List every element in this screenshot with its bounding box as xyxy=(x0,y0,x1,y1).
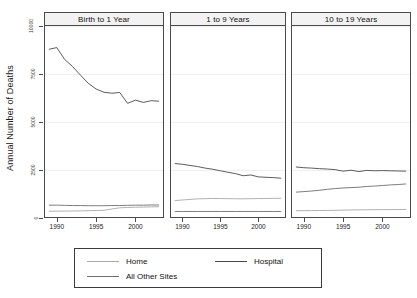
y-tick-mark xyxy=(39,170,43,171)
y-tick-label: 10000 xyxy=(22,17,38,35)
x-tick-mark xyxy=(220,218,221,222)
y-axis-title: Annual Number of Deaths xyxy=(2,30,18,205)
legend-label-home: Home xyxy=(126,257,147,266)
x-tick-label: 1990 xyxy=(297,223,311,230)
y-tick-label: 7500 xyxy=(22,65,38,83)
series-line xyxy=(296,209,406,210)
x-tick-mark xyxy=(343,218,344,222)
chart-legend: Home Hospital All Other Sites xyxy=(74,248,322,288)
y-axis-title-text: Annual Number of Deaths xyxy=(5,65,15,171)
series-canvas xyxy=(171,26,285,217)
series-line xyxy=(49,207,159,212)
x-tick-mark xyxy=(182,218,183,222)
y-tick-mark xyxy=(39,26,43,27)
legend-label-all-other-sites: All Other Sites xyxy=(126,272,177,281)
x-tick-label: 2000 xyxy=(375,223,389,230)
legend-swatch-home xyxy=(87,261,119,262)
panel-plot-area xyxy=(170,26,286,218)
legend-item-all-other-sites: All Other Sites xyxy=(87,272,177,281)
x-tick-mark xyxy=(57,218,58,222)
series-line xyxy=(175,164,281,179)
legend-label-hospital: Hospital xyxy=(254,257,283,266)
y-tick-mark xyxy=(39,122,43,123)
y-tick-mark xyxy=(39,74,43,75)
series-canvas xyxy=(45,26,163,217)
legend-item-hospital: Hospital xyxy=(215,257,283,266)
x-tick-label: 1995 xyxy=(89,223,103,230)
x-tick-mark xyxy=(304,218,305,222)
panel-title: Birth to 1 Year xyxy=(44,12,164,26)
chart-figure: Annual Number of Deaths 0250050007500100… xyxy=(0,0,417,298)
x-tick-mark xyxy=(96,218,97,222)
series-line xyxy=(175,198,281,200)
series-line xyxy=(49,205,159,206)
x-tick-label: 1995 xyxy=(213,223,227,230)
x-tick-mark xyxy=(382,218,383,222)
y-tick-mark xyxy=(39,218,43,219)
x-tick-label: 1990 xyxy=(50,223,64,230)
y-tick-label: 0 xyxy=(22,209,38,227)
legend-swatch-all-other-sites xyxy=(87,276,119,277)
x-tick-label: 1990 xyxy=(175,223,189,230)
x-tick-mark xyxy=(135,218,136,222)
panel-plot-area xyxy=(44,26,164,218)
series-line xyxy=(296,184,406,192)
series-line xyxy=(49,48,159,104)
panel-plot-area xyxy=(291,26,411,218)
legend-swatch-hospital xyxy=(215,261,247,262)
panel-title: 1 to 9 Years xyxy=(170,12,286,26)
x-tick-label: 2000 xyxy=(128,223,142,230)
y-tick-label: 2500 xyxy=(22,161,38,179)
y-tick-label: 5000 xyxy=(22,113,38,131)
chart-panel: 10 to 19 Years xyxy=(291,12,411,218)
chart-panel: Birth to 1 Year xyxy=(44,12,164,218)
series-line xyxy=(296,167,406,172)
series-canvas xyxy=(292,26,410,217)
legend-item-home: Home xyxy=(87,257,147,266)
x-tick-label: 2000 xyxy=(251,223,265,230)
x-tick-label: 1995 xyxy=(336,223,350,230)
chart-panel: 1 to 9 Years xyxy=(170,12,286,218)
x-tick-mark xyxy=(258,218,259,222)
panel-title: 10 to 19 Years xyxy=(291,12,411,26)
